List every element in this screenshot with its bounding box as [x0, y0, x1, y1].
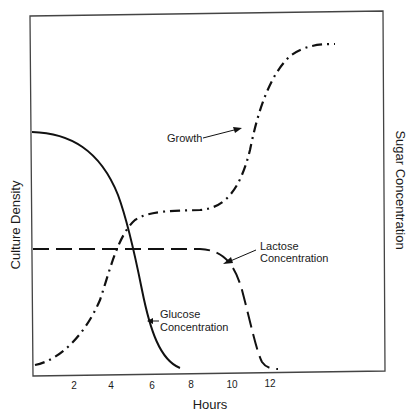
- lactose-label-line1: Lactose: [260, 240, 299, 252]
- x-tick-label: 10: [226, 379, 238, 390]
- x-tick-label: 2: [71, 380, 77, 391]
- growth-arrow: [203, 129, 238, 138]
- glucose-label-line2: Concentration: [160, 321, 229, 333]
- x-tick-label: 6: [149, 380, 155, 391]
- chart: Growth Lactose Concentration Glucose Con…: [0, 0, 415, 419]
- lactose-curve: [33, 249, 278, 369]
- growth-label: Growth: [167, 132, 202, 144]
- glucose-label-line1: Glucose: [160, 308, 200, 320]
- right-axis-title: Sugar Concentration: [393, 130, 408, 249]
- lactose-label-line2: Concentration: [260, 252, 329, 264]
- x-tick-label: 4: [108, 380, 114, 391]
- x-tick-label: 8: [188, 379, 194, 390]
- x-axis-title: Hours: [193, 397, 228, 412]
- left-axis-title: Culture Density: [8, 180, 23, 269]
- growth-arrowhead-icon: [233, 127, 242, 133]
- lactose-arrow: [228, 250, 256, 262]
- x-tick-label: 12: [264, 378, 276, 389]
